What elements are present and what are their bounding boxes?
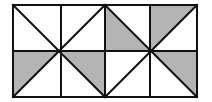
triangle-grid-diagram [0,0,212,102]
